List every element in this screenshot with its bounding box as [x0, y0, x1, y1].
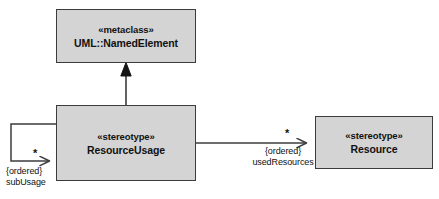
class-box-named-element[interactable]: «metaclass» UML::NamedElement [56, 9, 196, 63]
used-resources-role-name-label: usedResources [235, 157, 331, 168]
uml-diagram-canvas: «metaclass» UML::NamedElement «stereotyp… [0, 0, 439, 199]
class-stereotype-label: «stereotype» [345, 129, 402, 142]
class-stereotype-label: «metaclass» [98, 23, 153, 36]
class-box-resource-usage[interactable]: «stereotype» ResourceUsage [56, 105, 196, 181]
sub-usage-multiplicity-label: * [33, 148, 37, 159]
sub-usage-role-name-label: subUsage [6, 177, 46, 188]
class-name-label: ResourceUsage [87, 143, 165, 157]
used-resources-constraint-label: {ordered} [235, 146, 331, 157]
sub-usage-constraint-label: {ordered} [6, 166, 46, 177]
sub-usage-role-labels: {ordered} subUsage [6, 166, 46, 188]
used-resources-role-labels: {ordered} usedResources [235, 146, 331, 168]
class-name-label: Resource [350, 142, 397, 156]
used-resources-multiplicity-label: * [285, 128, 289, 139]
class-box-resource[interactable]: «stereotype» Resource [315, 116, 433, 169]
class-stereotype-label: «stereotype» [97, 130, 154, 143]
generalization-edge [121, 63, 131, 106]
class-name-label: UML::NamedElement [74, 36, 178, 50]
